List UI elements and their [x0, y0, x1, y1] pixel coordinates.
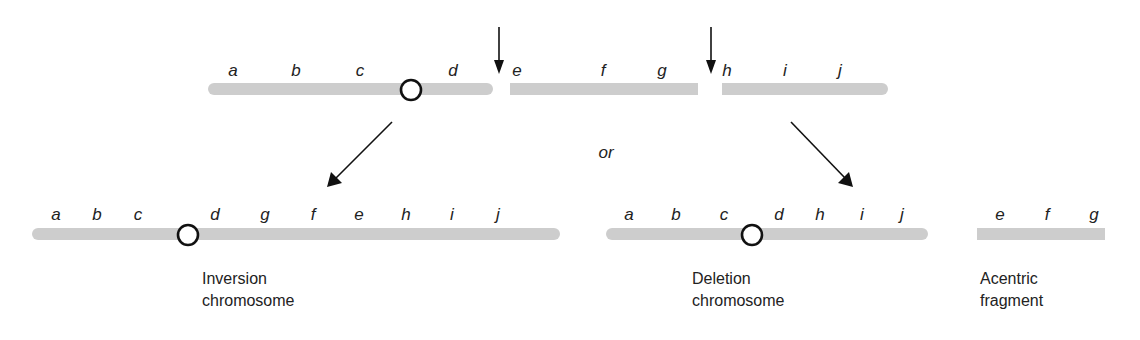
- gene-label: e: [512, 61, 521, 80]
- or-connector: or: [598, 143, 614, 162]
- gene-label: e: [354, 205, 363, 224]
- arrow-down-icon: [706, 60, 716, 74]
- gene-label: g: [1089, 205, 1099, 224]
- arrow-to-inversion: [327, 122, 392, 187]
- inversion-chromosome: a b c d g f e h i j Inversion chromosome: [38, 205, 554, 309]
- arrow-to-deletion: [791, 122, 853, 187]
- gene-label: a: [624, 205, 633, 224]
- break-arrow-1: [494, 27, 504, 74]
- arrow-down-icon: [494, 60, 504, 74]
- gene-label: j: [494, 205, 501, 224]
- centromere-icon: [401, 80, 421, 100]
- gene-label: h: [815, 205, 824, 224]
- original-chromosome: a b c d e f g h i j: [214, 61, 882, 100]
- acentric-caption-line1: Acentric: [980, 270, 1038, 287]
- gene-label: d: [448, 61, 458, 80]
- gene-label: a: [51, 205, 60, 224]
- gene-label: d: [210, 205, 220, 224]
- gene-label: b: [291, 61, 300, 80]
- chromosome-diagram: a b c d e f g h i j or a b c d g f e: [0, 0, 1140, 340]
- inversion-caption-line2: chromosome: [202, 292, 295, 309]
- segment-efg: [510, 83, 698, 95]
- gene-label: c: [720, 205, 729, 224]
- gene-label: h: [401, 205, 410, 224]
- centromere-icon: [178, 225, 198, 245]
- gene-label: j: [836, 61, 843, 80]
- gene-label: i: [783, 61, 788, 80]
- gene-label: f: [601, 61, 608, 80]
- break-arrow-2: [706, 27, 716, 74]
- acentric-caption-line2: fragment: [980, 292, 1044, 309]
- gene-label: g: [657, 61, 667, 80]
- gene-label: h: [722, 61, 731, 80]
- gene-label: i: [450, 205, 455, 224]
- arrow-down-right-icon: [838, 172, 853, 187]
- acentric-fragment: e f g Acentric fragment: [977, 205, 1105, 309]
- gene-label: j: [898, 205, 905, 224]
- deletion-caption-line2: chromosome: [692, 292, 785, 309]
- gene-label: g: [260, 205, 270, 224]
- deletion-chromosome: a b c d h i j Deletion chromosome: [612, 205, 922, 309]
- deletion-caption-line1: Deletion: [692, 270, 751, 287]
- gene-label: b: [92, 205, 101, 224]
- gene-label: e: [995, 205, 1004, 224]
- centromere-icon: [742, 225, 762, 245]
- inversion-caption-line1: Inversion: [202, 270, 267, 287]
- gene-label: i: [860, 205, 865, 224]
- gene-label: f: [311, 205, 318, 224]
- gene-label: c: [356, 61, 365, 80]
- segment-abcd-cut-end: [470, 83, 487, 95]
- gene-label: a: [228, 61, 237, 80]
- gene-label: c: [134, 205, 143, 224]
- gene-label: b: [671, 205, 680, 224]
- segment-hij-cut-end: [722, 83, 752, 95]
- gene-label: f: [1045, 205, 1052, 224]
- gene-label: d: [774, 205, 784, 224]
- fragment-body: [977, 228, 1105, 240]
